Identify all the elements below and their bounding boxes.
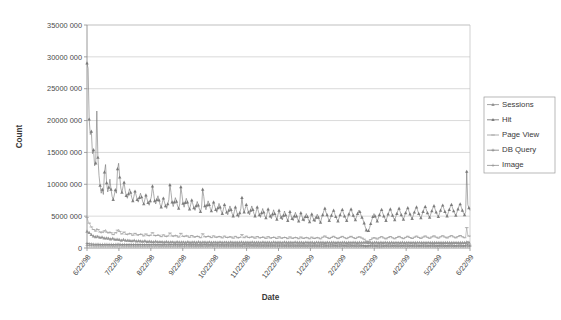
line-chart: 05000 00010000 00015000 00020000 0002500…	[0, 0, 561, 320]
x-axis-tick-label: 1/22/99	[294, 253, 316, 277]
series-page-view	[85, 217, 471, 241]
x-axis-tick-label: 10/22/98	[196, 253, 220, 281]
x-axis-tick-label: 6/22/99	[454, 253, 476, 277]
x-axis-tick-label: 8/22/98	[135, 253, 157, 277]
x-axis-tick-label: 11/22/98	[228, 253, 252, 280]
x-axis-tick-label: 4/22/99	[390, 253, 412, 277]
legend-label: Image	[502, 160, 524, 169]
series-hit	[85, 61, 470, 232]
x-axis-tick-label: 9/22/98	[166, 253, 188, 277]
y-axis-tick-label: 5000 000	[51, 212, 82, 221]
legend: SessionsHitPage ViewDB QueryImage	[484, 97, 555, 173]
y-axis-tick-label: 30000 000	[47, 53, 82, 62]
y-axis-tick-label: 15000 000	[47, 148, 82, 157]
y-axis-title: Count	[15, 124, 24, 148]
legend-label: DB Query	[502, 145, 536, 154]
chart-container: 05000 00010000 00015000 00020000 0002500…	[0, 0, 561, 320]
x-axis-tick-label: 3/22/99	[358, 253, 380, 277]
legend-label: Page View	[502, 130, 540, 139]
x-axis-tick-label: 6/22/98	[71, 253, 93, 277]
y-axis-tick-label: 0	[78, 244, 82, 253]
x-axis-tick-label: 2/22/99	[326, 253, 348, 277]
x-axis-tick-label: 7/22/98	[103, 253, 125, 277]
y-gridlines: 05000 00010000 00015000 00020000 0002500…	[47, 21, 470, 253]
legend-label: Hit	[502, 115, 512, 124]
x-axis-tick-label: 5/22/99	[422, 253, 444, 277]
legend-label: Sessions	[502, 100, 534, 109]
y-axis-tick-label: 20000 000	[47, 116, 82, 125]
x-axis-ticks: 6/22/987/22/988/22/989/22/9810/22/9811/2…	[71, 248, 476, 280]
x-axis-tick-label: 12/22/98	[260, 253, 284, 281]
x-axis-title: Date	[262, 293, 280, 302]
y-axis-tick-label: 25000 000	[47, 84, 82, 93]
y-axis-tick-label: 10000 000	[47, 180, 82, 189]
y-axis-tick-label: 35000 000	[47, 21, 82, 30]
